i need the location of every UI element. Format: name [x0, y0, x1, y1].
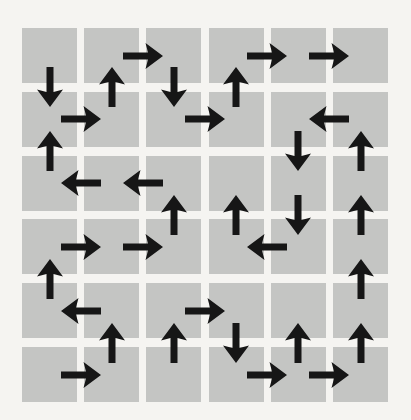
- grid-square: [22, 283, 77, 338]
- grid-square: [22, 219, 77, 274]
- grid-square: [209, 92, 264, 147]
- grid-square: [84, 219, 139, 274]
- grid-square: [84, 156, 139, 211]
- arrow-grid-figure: [0, 0, 411, 420]
- grid-square: [209, 283, 264, 338]
- grid-square: [271, 347, 326, 402]
- grid-square: [146, 92, 201, 147]
- grid-square: [146, 347, 201, 402]
- arrow-board: [0, 0, 411, 420]
- grid-square: [209, 28, 264, 83]
- grid-square: [84, 28, 139, 83]
- grid-square: [146, 156, 201, 211]
- grid-square: [271, 28, 326, 83]
- grid-square: [209, 219, 264, 274]
- grid-square: [146, 219, 201, 274]
- grid-square: [333, 219, 388, 274]
- grid-square: [271, 156, 326, 211]
- grid-square: [146, 28, 201, 83]
- grid-square: [22, 92, 77, 147]
- grid-square: [84, 283, 139, 338]
- grid-square: [22, 28, 77, 83]
- grid-square: [271, 92, 326, 147]
- grid-square: [333, 156, 388, 211]
- grid-square: [333, 28, 388, 83]
- grid-square: [209, 156, 264, 211]
- grid-square: [333, 92, 388, 147]
- grid-square: [22, 347, 77, 402]
- grid-square: [84, 92, 139, 147]
- grid-square: [333, 347, 388, 402]
- grid-square: [271, 283, 326, 338]
- grid-square: [209, 347, 264, 402]
- grid-square: [146, 283, 201, 338]
- grid-square: [271, 219, 326, 274]
- grid-square: [22, 156, 77, 211]
- grid-square: [333, 283, 388, 338]
- grid-square: [84, 347, 139, 402]
